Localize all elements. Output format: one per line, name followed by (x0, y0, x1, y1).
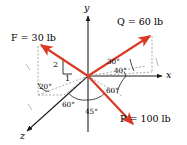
tick-q-right (156, 58, 158, 66)
q-inplane-projection (88, 72, 152, 76)
force-vector-diagram: F = 30 lb Q = 60 lb P = 100 lb y x z 20°… (0, 0, 187, 145)
arc-30 (130, 59, 134, 71)
force-vector-P (88, 76, 133, 124)
arc-20 (38, 83, 49, 92)
f-inplane-projection (38, 76, 88, 95)
arc-45 (88, 93, 105, 100)
force-vector-F (41, 45, 88, 76)
force-vector-Q (88, 36, 150, 76)
dimension-ticks (26, 58, 158, 110)
arc-60-left (68, 93, 88, 100)
angle-arcs (38, 59, 134, 100)
arc-60-right (117, 76, 126, 93)
diagram-canvas (0, 0, 187, 145)
tick-f-lower (28, 104, 32, 110)
axis-group (27, 16, 162, 132)
z-axis-line (27, 76, 88, 131)
tick-f-left (26, 64, 30, 70)
f-box-slant (64, 76, 88, 95)
